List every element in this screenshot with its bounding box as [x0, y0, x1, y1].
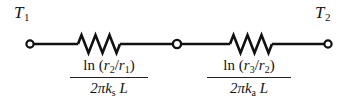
conductivity-var-left: k: [105, 80, 112, 96]
close-paren-right: ): [270, 57, 275, 73]
pi-symbol-right: π: [237, 80, 245, 96]
length-var-left: L: [120, 80, 128, 96]
temperature-label-t2: T2: [315, 4, 330, 23]
thermal-resistance-network-figure: T1 T2 ln (r2/r1) 2πks L ln (r3/r2): [0, 0, 351, 112]
temperature-subscript-right: 2: [324, 11, 330, 23]
resistance-denominator-right: 2πka L: [207, 78, 291, 98]
resistance-numerator-left: ln (r2/r1): [70, 58, 148, 77]
node-circle-middle: [173, 40, 181, 48]
resistor-zigzag-left: [78, 35, 120, 53]
conductivity-sub-left: s: [112, 87, 116, 98]
resistance-numerator-right: ln (r3/r2): [207, 58, 291, 77]
node-circle-left: [26, 40, 33, 47]
length-var-right: L: [260, 80, 268, 96]
node-circle-right: [324, 40, 331, 47]
ln-function-right: ln: [223, 57, 235, 73]
temperature-label-t1: T1: [14, 4, 29, 23]
coefficient-left: 2: [90, 80, 98, 96]
conductivity-var-right: k: [245, 80, 252, 96]
temperature-subscript-left: 1: [23, 11, 29, 23]
resistance-expression-right: ln (r3/r2) 2πka L: [207, 58, 291, 98]
close-paren-left: ): [130, 57, 135, 73]
ln-function-left: ln: [83, 57, 95, 73]
resistor-zigzag-right: [230, 35, 272, 53]
resistance-expression-left: ln (r2/r1) 2πks L: [70, 58, 148, 98]
resistor-network-diagram: [0, 26, 351, 62]
resistance-denominator-left: 2πks L: [70, 78, 148, 98]
conductivity-sub-right: a: [252, 87, 256, 98]
